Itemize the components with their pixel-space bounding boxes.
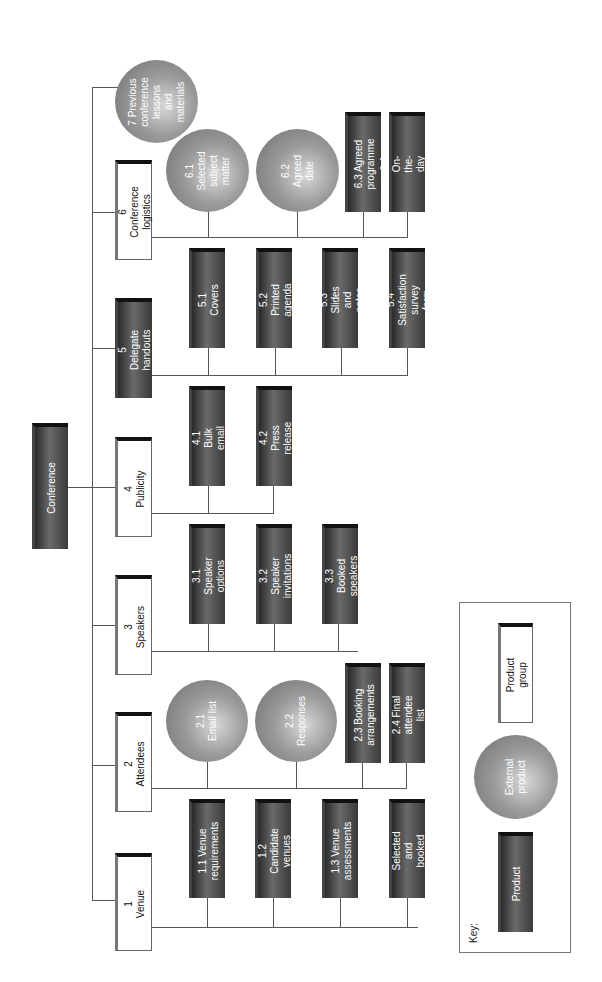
product-4-2[interactable]: 4.2 Press release (256, 386, 292, 486)
node-label: 3.2 Speaker invitations (258, 554, 294, 598)
node-label: 3.1 Speaker options (191, 557, 227, 594)
product-3-2[interactable]: 3.2 Speaker invitations (256, 524, 292, 624)
product-2-4[interactable]: 2.4 Final attendee list (389, 663, 425, 763)
connector (363, 211, 364, 237)
group-label: 1 Venue (123, 889, 147, 917)
connector (296, 762, 297, 788)
connector (273, 897, 274, 927)
root-node-conference[interactable]: Conference (32, 423, 68, 549)
node-label: 6.4 On-the-day staff (379, 155, 439, 174)
connector (207, 762, 208, 788)
connector (275, 348, 276, 375)
external-product-6-1[interactable]: 6.1 Selected subject matter (166, 129, 249, 212)
connector (338, 624, 339, 651)
node-label: 6.3 Agreed programme (353, 138, 377, 189)
key-title: Key: (468, 923, 479, 943)
node-label: 6.2 Agreed date (280, 150, 316, 192)
product-3-1[interactable]: 3.1 Speaker options (189, 524, 225, 624)
node-label: 1.3 Venue assessments (330, 821, 354, 879)
connector (208, 348, 209, 375)
product-5-3[interactable]: 5.3 Slides and notes (322, 248, 358, 348)
connector (274, 624, 275, 651)
product-1-4[interactable]: 1.4 Selected and booked venue (389, 799, 425, 898)
node-label: 2.3 Booking arrangements (353, 684, 377, 746)
node-label: 5.2 Printed agenda (258, 283, 294, 316)
node-label: 1.4 Selected and booked venue (379, 831, 439, 870)
node-label: 1.2 Candidate venues (257, 828, 293, 874)
product-6-4[interactable]: 6.4 On-the-day staff (389, 112, 425, 212)
key-label: Product (511, 867, 523, 901)
connector (362, 762, 363, 788)
node-label: 2.2 Responses (284, 696, 308, 746)
connector (92, 625, 115, 626)
group-label: 5 Delegate handouts (117, 329, 153, 370)
node-label: 6.1 Selected subject matter (184, 150, 232, 192)
connector (341, 348, 342, 375)
key-label: External product (504, 759, 528, 796)
external-product-2-2[interactable]: 2.2 Responses (255, 680, 337, 762)
branch-bar-5 (152, 375, 408, 376)
connector (92, 348, 115, 349)
node-label: 5.1 Covers (197, 284, 221, 316)
connector (207, 897, 208, 927)
group-6-conference-logistics[interactable]: 6 Conference logistics (115, 160, 152, 260)
branch-bar-6 (152, 237, 408, 238)
group-1-venue[interactable]: 1 Venue (115, 853, 152, 951)
branch-bar-2 (152, 788, 407, 789)
node-label: 5.4 Satisfaction survey form (385, 274, 433, 326)
key-product-group-swatch: Product group (498, 623, 533, 723)
connector (92, 765, 115, 766)
group-3-speakers[interactable]: 3 Speakers (115, 575, 152, 675)
node-label: 4.2 Press release (258, 422, 294, 455)
external-product-6-2[interactable]: 6.2 Agreed date (256, 129, 339, 212)
node-label: 4.1 Bulk email (191, 426, 227, 450)
group-5-delegate-handouts[interactable]: 5 Delegate handouts (115, 298, 152, 398)
key-external-product-swatch: External product (474, 735, 558, 819)
connector (407, 897, 408, 927)
product-5-1[interactable]: 5.1 Covers (189, 248, 225, 348)
branch-bar-3 (152, 651, 358, 652)
product-3-3[interactable]: 3.3 Booked speakers (322, 524, 358, 624)
group-label: 3 Speakers (123, 605, 147, 647)
connector (92, 900, 115, 901)
product-2-3[interactable]: 2.3 Booking arrangements (345, 663, 381, 763)
node-label: 3.3 Booked speakers (324, 556, 360, 597)
node-label: 2.1 Email list (195, 701, 219, 741)
group-label: 2 Attendees (123, 741, 147, 786)
spine-line (92, 87, 93, 901)
connector (407, 211, 408, 237)
product-1-1[interactable]: 1.1 Venue requirements (189, 799, 225, 898)
product-6-3[interactable]: 6.3 Agreed programme (345, 112, 381, 212)
connector (208, 624, 209, 651)
group-2-attendees[interactable]: 2 Attendees (115, 712, 152, 812)
product-5-4[interactable]: 5.4 Satisfaction survey form (389, 248, 425, 348)
product-1-3[interactable]: 1.3 Venue assessments (322, 799, 358, 898)
group-4-publicity[interactable]: 4 Publicity (115, 437, 152, 537)
connector (208, 211, 209, 237)
key-product-swatch: Product (498, 832, 533, 932)
root-connector (67, 487, 92, 488)
group-label: 4 Publicity (123, 470, 147, 507)
node-label: 2.4 Final attendee list (391, 696, 427, 735)
branch-bar-1 (152, 927, 418, 928)
key-label: Product group (505, 657, 529, 691)
connector (92, 487, 115, 488)
product-5-2[interactable]: 5.2 Printed agenda (256, 248, 292, 348)
product-1-2[interactable]: 1.2 Candidate venues (255, 799, 291, 898)
node-label: 5.3 Slides and notes (318, 286, 366, 313)
connector (92, 87, 120, 88)
node-label: 1.1 Venue requirements (197, 821, 221, 879)
product-4-1[interactable]: 4.1 Bulk email (189, 386, 225, 486)
external-product-2-1[interactable]: 2.1 Email list (166, 680, 248, 762)
root-label: Conference (46, 462, 58, 514)
connector (208, 485, 209, 513)
connector (92, 212, 115, 213)
connector (340, 897, 341, 927)
node-label: 7 Previous conference lessons and materi… (127, 77, 187, 126)
connector (273, 485, 274, 513)
external-product-7-previous-conference[interactable]: 7 Previous conference lessons and materi… (115, 60, 198, 143)
key-legend: Key: Product External product Product gr… (459, 602, 571, 953)
connector (297, 211, 298, 237)
group-label: 6 Conference logistics (117, 186, 153, 238)
connector (407, 348, 408, 375)
